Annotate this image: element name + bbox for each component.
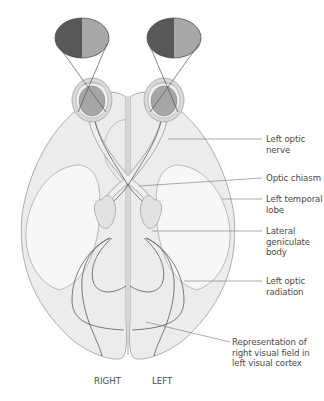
label-lateral-geniculate-body: Lateral geniculate body <box>266 226 310 258</box>
side-label-right: RIGHT <box>94 376 121 386</box>
side-label-left: LEFT <box>152 376 172 386</box>
right-eye <box>72 78 112 122</box>
label-right-visual-field-representation: Representation of right visual field in … <box>232 337 310 369</box>
label-left-temporal-lobe: Left temporal lobe <box>266 194 323 215</box>
label-left-optic-radiation: Left optic radiation <box>266 276 305 297</box>
label-optic-chiasm: Optic chiasm <box>266 173 321 184</box>
left-eye <box>144 78 184 122</box>
label-left-optic-nerve: Left optic nerve <box>266 134 305 155</box>
